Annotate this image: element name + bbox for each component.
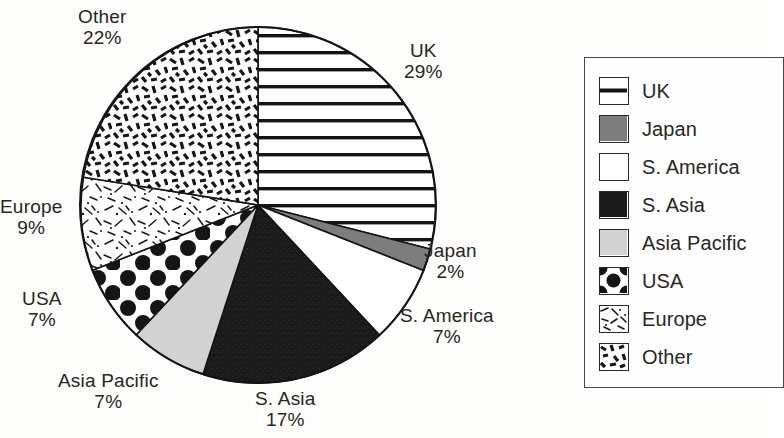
pie-label-japan-pct: 2% <box>424 261 477 282</box>
legend-swatch-usa-icon <box>599 267 629 295</box>
legend-label-asia-pacific: Asia Pacific <box>642 232 747 255</box>
legend-label-europe: Europe <box>642 308 707 331</box>
pie-label-s-asia-pct: 17% <box>255 409 316 430</box>
pie-label-japan-name: Japan <box>424 240 477 261</box>
pie-label-other: Other 22% <box>78 6 127 49</box>
pie-label-s-america: S. America 7% <box>400 305 494 348</box>
chart-legend: UK Japan S. America <box>584 57 784 388</box>
pie-label-asia-pacific: Asia Pacific 7% <box>58 370 159 413</box>
legend-label-uk: UK <box>642 80 670 103</box>
legend-item-usa[interactable]: USA <box>599 262 783 300</box>
pie-label-uk-name: UK <box>410 40 437 61</box>
legend-swatch-s-america-icon <box>599 153 629 181</box>
legend-swatch-europe-icon <box>599 305 629 333</box>
pie-label-europe-pct: 9% <box>0 217 62 238</box>
legend-item-asia-pacific[interactable]: Asia Pacific <box>599 224 783 262</box>
pie-label-other-name: Other <box>78 6 127 27</box>
pie-label-s-asia: S. Asia 17% <box>255 388 316 431</box>
legend-swatch-asia-pacific-icon <box>599 229 629 257</box>
legend-swatch-uk-icon <box>599 77 629 105</box>
legend-swatch-japan-icon <box>599 115 629 143</box>
legend-item-s-america[interactable]: S. America <box>599 148 783 186</box>
pie-label-japan: Japan 2% <box>424 240 477 283</box>
pie-label-usa: USA 7% <box>22 288 62 331</box>
legend-swatch-other-icon <box>599 343 629 371</box>
pie-label-uk: UK 29% <box>404 40 443 83</box>
pie-label-uk-pct: 29% <box>404 61 443 82</box>
pie-label-s-asia-name: S. Asia <box>255 388 316 409</box>
legend-label-japan: Japan <box>642 118 697 141</box>
legend-item-other[interactable]: Other <box>599 338 783 376</box>
pie-label-s-america-pct: 7% <box>400 326 494 347</box>
pie-label-usa-name: USA <box>22 288 62 309</box>
pie-label-europe: Europe 9% <box>0 196 62 239</box>
pie-label-asia-pacific-pct: 7% <box>58 391 159 412</box>
legend-item-uk[interactable]: UK <box>599 72 783 110</box>
legend-label-s-asia: S. Asia <box>642 194 705 217</box>
pie-label-asia-pacific-name: Asia Pacific <box>58 370 159 391</box>
legend-item-japan[interactable]: Japan <box>599 110 783 148</box>
legend-item-europe[interactable]: Europe <box>599 300 783 338</box>
legend-label-s-america: S. America <box>642 156 740 179</box>
pie-label-usa-pct: 7% <box>22 309 62 330</box>
legend-swatch-s-asia-icon <box>599 191 629 219</box>
pie-label-europe-name: Europe <box>0 196 62 217</box>
pie-label-other-pct: 22% <box>78 27 127 48</box>
legend-label-usa: USA <box>642 270 683 293</box>
pie-slice-other <box>84 27 259 205</box>
legend-item-s-asia[interactable]: S. Asia <box>599 186 783 224</box>
pie-label-s-america-name: S. America <box>400 305 494 326</box>
legend-label-other: Other <box>642 346 693 369</box>
